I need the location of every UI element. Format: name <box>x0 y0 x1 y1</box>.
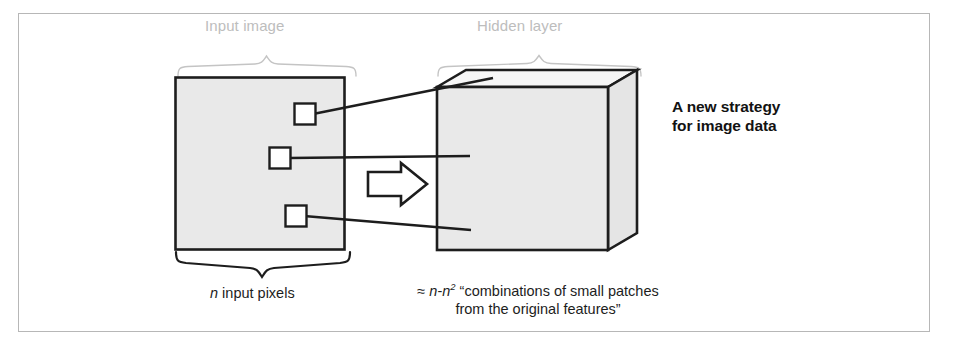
caption-hidden-layer: ≈ n-n2 “combinations of small patches fr… <box>403 283 673 318</box>
cube-side-face <box>608 70 637 250</box>
caption-input-pixels-symbol: n <box>210 285 218 301</box>
patch-top <box>295 104 316 125</box>
headline-line-1: A new strategy <box>672 98 780 115</box>
transform-arrow <box>368 163 427 205</box>
brace-input-top <box>178 56 356 76</box>
patch-middle <box>270 148 291 169</box>
cube-top-face <box>437 70 637 87</box>
caption-line1-text: “combinations of small <box>456 283 604 299</box>
headline-text: A new strategyfor image data <box>672 97 852 135</box>
label-hidden-layer: Hidden layer <box>477 17 562 34</box>
caption-input-pixels: n input pixels <box>210 285 295 301</box>
caption-input-pixels-text: input pixels <box>218 285 295 301</box>
brace-input-bottom <box>176 252 350 277</box>
label-input-image: Input image <box>205 17 284 34</box>
figure-container: Input image Hidden layer n input pixels … <box>0 0 954 349</box>
patch-bottom <box>286 206 307 227</box>
cube-front-face <box>437 87 608 250</box>
caption-approx-symbol: ≈ <box>417 283 429 299</box>
input-image-square <box>176 78 345 250</box>
headline-line-2: for image data <box>672 117 777 134</box>
hidden-layer-cube <box>437 70 637 250</box>
